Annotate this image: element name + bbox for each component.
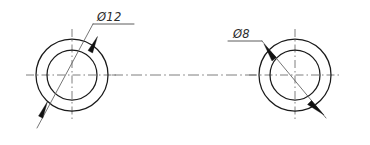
left-dimension-label: Ø12 (96, 10, 122, 24)
left-upper-arrowhead (88, 37, 98, 54)
technical-drawing-svg: Ø12 Ø8 (0, 0, 370, 145)
right-circle-assembly: Ø8 (228, 27, 341, 121)
left-circle-assembly: Ø12 (26, 10, 134, 128)
right-upper-arrowhead (264, 44, 277, 61)
drawing-canvas: Ø12 Ø8 (0, 0, 370, 145)
left-lower-arrowhead (39, 102, 48, 119)
right-dimension-label: Ø8 (232, 27, 250, 41)
